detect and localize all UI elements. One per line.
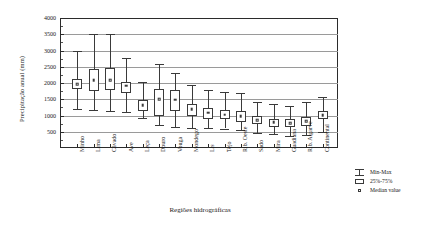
whisker-cap-max — [253, 102, 262, 103]
y-tick-label: 3000 — [10, 48, 60, 54]
whisker-cap-max — [187, 85, 196, 86]
median-marker — [256, 119, 259, 122]
x-tick-label: Vouga — [177, 137, 183, 152]
x-tick-label: Rib. Oeste — [242, 127, 248, 152]
whisker-cap-min — [122, 112, 131, 113]
box-iqr — [154, 89, 164, 117]
y-tick-label: 3500 — [10, 31, 60, 37]
x-tick-label: Lis — [209, 144, 215, 152]
legend-label: 25%-75% — [368, 177, 392, 186]
whisker-cap-max — [73, 51, 82, 52]
median-marker — [92, 79, 95, 82]
median-marker — [240, 115, 243, 118]
y-tick-label: 1500 — [10, 96, 60, 102]
box-series — [61, 18, 338, 147]
whisker-cap-max — [122, 58, 131, 59]
median-key-icon — [352, 186, 368, 195]
whisker-cap-max — [204, 90, 213, 91]
median-marker — [321, 114, 324, 117]
whisker-cap-max — [302, 102, 311, 103]
x-tick-label: Minho — [79, 136, 85, 152]
x-tick-label: Guadiana — [291, 129, 297, 152]
whisker-cap-max — [236, 93, 245, 94]
x-tick-label: Cávado — [111, 134, 117, 152]
x-axis-title: Regiões hidrográficas — [60, 206, 340, 214]
y-tick-label: 2000 — [10, 80, 60, 86]
x-tick-label: Leça — [144, 140, 150, 152]
whisker-cap-min — [220, 129, 229, 130]
whisker-cap-max — [89, 34, 98, 35]
whisker-cap-min — [171, 127, 180, 128]
whisker-cap-max — [155, 64, 164, 65]
y-tick-label: 1000 — [10, 113, 60, 119]
x-tick-label: Continental — [324, 124, 330, 152]
y-tick-label: 500 — [10, 129, 60, 135]
median-marker — [141, 104, 144, 107]
legend-label: Median value — [368, 186, 401, 195]
x-tick-label: Lima — [95, 139, 101, 152]
whisker-cap-min — [155, 125, 164, 126]
whisker-cap-max — [106, 34, 115, 35]
whisker-cap-max — [171, 73, 180, 74]
whisker-cap-min — [138, 118, 147, 119]
median-marker — [109, 79, 112, 82]
chart-legend: Min-Max25%-75%Median value — [352, 168, 401, 195]
whisker-cap-min — [73, 109, 82, 110]
y-tick-label: 2500 — [10, 64, 60, 70]
legend-label: Min-Max — [368, 168, 391, 177]
whisker-cap-min — [204, 128, 213, 129]
y-axis-tick-labels: 5001000150020002500300035004000 — [0, 18, 60, 148]
whisker-cap-min — [269, 134, 278, 135]
median-marker — [76, 83, 79, 86]
x-tick-label: Mira — [275, 140, 281, 152]
whisker-cap-min — [106, 111, 115, 112]
median-marker — [191, 108, 194, 111]
whisker-cap-max — [269, 104, 278, 105]
x-tick-label: Mondego — [193, 129, 199, 152]
legend-item-iqr: 25%-75% — [352, 177, 401, 186]
legend-item-minmax: Min-Max — [352, 168, 401, 177]
y-tick-label: 4000 — [10, 15, 60, 21]
x-tick-label: Rib. Algarve — [307, 121, 313, 152]
whisker-cap-min — [253, 133, 262, 134]
median-marker — [174, 99, 177, 102]
median-marker — [207, 112, 210, 115]
whisker-cap-max — [138, 82, 147, 83]
x-tick-label: Sado — [258, 140, 264, 152]
whisker-cap-min — [89, 110, 98, 111]
whisker-cap-max — [220, 92, 229, 93]
median-marker — [289, 122, 292, 125]
x-tick-label: Ave — [128, 142, 134, 152]
legend-item-median: Median value — [352, 186, 401, 195]
x-tick-label: Douro — [160, 137, 166, 152]
whisker-cap-max — [318, 97, 327, 98]
iqr-key-icon — [352, 177, 368, 186]
median-marker — [223, 113, 226, 116]
x-tick-label: Tejo — [226, 141, 232, 152]
median-marker — [158, 98, 161, 101]
median-marker — [125, 84, 128, 87]
median-marker — [272, 121, 275, 124]
minmax-key-icon — [352, 168, 368, 177]
whisker-cap-max — [285, 106, 294, 107]
boxplot-chart: Precipitação anual (mm) 5001000150020002… — [0, 0, 436, 233]
